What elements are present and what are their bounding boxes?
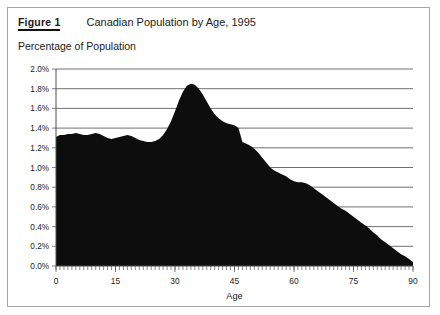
chart-plot-area: 0.0%0.2%0.4%0.6%0.8%1.0%1.2%1.4%1.6%1.8%… [8, 8, 431, 308]
population-area-chart: 0.0%0.2%0.4%0.6%0.8%1.0%1.2%1.4%1.6%1.8%… [8, 8, 431, 308]
area-series-percentage-of-population [56, 84, 413, 266]
x-axis-tick-labels: 0153045607590 [54, 276, 418, 286]
x-axis-title: Age [226, 291, 242, 301]
y-tick-label: 0.6% [30, 203, 49, 212]
y-axis-ticks [52, 69, 56, 266]
x-tick-label: 90 [408, 276, 418, 286]
x-tick-label: 0 [54, 276, 59, 286]
figure-frame: Figure 1 Canadian Population by Age, 199… [7, 7, 430, 307]
y-axis-tick-labels: 0.0%0.2%0.4%0.6%0.8%1.0%1.2%1.4%1.6%1.8%… [30, 65, 49, 271]
y-tick-label: 1.0% [30, 164, 49, 173]
x-tick-label: 60 [289, 276, 299, 286]
x-tick-label: 30 [170, 276, 180, 286]
y-tick-label: 1.6% [30, 104, 49, 113]
y-tick-label: 0.0% [30, 262, 49, 271]
x-tick-label: 15 [111, 276, 121, 286]
y-tick-label: 0.2% [30, 242, 49, 251]
x-tick-label: 45 [230, 276, 240, 286]
area-fill [56, 84, 413, 266]
y-tick-label: 1.8% [30, 85, 49, 94]
y-tick-label: 1.4% [30, 124, 49, 133]
y-tick-label: 0.4% [30, 223, 49, 232]
y-tick-label: 0.8% [30, 183, 49, 192]
x-axis-ticks [56, 266, 413, 272]
y-tick-label: 2.0% [30, 65, 49, 74]
x-tick-label: 75 [349, 276, 359, 286]
y-tick-label: 1.2% [30, 144, 49, 153]
